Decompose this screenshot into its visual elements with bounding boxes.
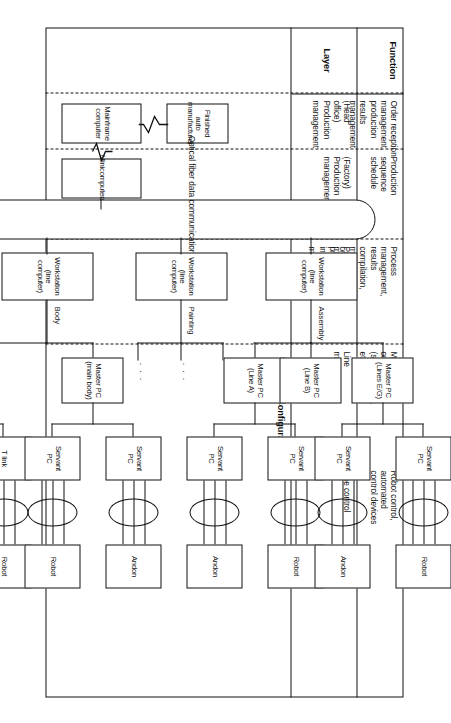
label-process-assembly: Assembly — [316, 306, 325, 340]
wire-linea-to-nodes — [254, 402, 255, 424]
bus-lineseg-1 — [395, 480, 451, 544]
wire-assembly-trunk-down — [253, 342, 311, 343]
wire-mainbody-node-bus — [51, 423, 133, 424]
wire-body-trunk — [46, 299, 47, 343]
wire-mainbody-to-nodes — [92, 402, 93, 424]
bus-lineseg-2 — [314, 480, 370, 544]
function-head-office: Order reception management, production r… — [347, 100, 398, 158]
wire-underbody-node-1 — [2, 423, 3, 437]
wire-painting-branch-2 — [180, 342, 181, 360]
box-workstation-body[interactable]: Workstation (line computer) — [1, 252, 93, 300]
wire-lineseg-to-nodes — [382, 402, 383, 424]
header-function: Function — [387, 33, 397, 87]
box-servant-pc-lineseg-2[interactable]: Servant PC — [314, 436, 370, 480]
box-master-pc-line-b[interactable]: Master PC (Line B) — [279, 357, 341, 403]
layer-head-office: (Head office) Production management — [310, 100, 351, 146]
wire-linea-node-bus — [213, 423, 295, 424]
wire-assembly-to-lines-eg — [382, 342, 383, 358]
wire-linea-node-1 — [294, 423, 295, 437]
function-line-control: Robot control, automated control devices — [367, 470, 398, 528]
label-process-painting: Painting — [186, 306, 195, 334]
wire-fiber-to-workstation-assembly — [310, 237, 311, 254]
wire-painting-branch-3 — [137, 342, 138, 360]
wire-mainbody-node-1 — [132, 423, 133, 437]
wire-linea-node-2 — [213, 423, 214, 437]
wire-assembly-trunk — [310, 299, 311, 343]
box-device-andon-mainbody[interactable]: Andon — [105, 544, 161, 588]
wire-body-to-mainbody — [92, 342, 93, 358]
box-device-andon-linea[interactable]: Andon — [186, 544, 242, 588]
box-workstation-assembly[interactable]: Workstation (line computer) — [265, 252, 357, 300]
wire-lineseg-node-bus — [341, 423, 423, 424]
wire-lineseg-node-1 — [422, 423, 423, 437]
box-device-andon-lineseg[interactable]: Andon — [314, 544, 370, 588]
wire-assembly-to-line-a — [254, 342, 255, 358]
bus-mainbody-1 — [105, 480, 161, 544]
wire-mainbody-node-2 — [51, 423, 52, 437]
zigzag-link-mainframe-manufacturer — [138, 113, 168, 135]
box-servant-pc-linea-2[interactable]: Servant PC — [186, 436, 242, 480]
box-master-pc-lines-eg[interactable]: Master PC (Lines E/G) — [351, 357, 413, 403]
box-workstation-painting[interactable]: Workstation (line computer) — [135, 252, 227, 300]
wire-fiber-to-workstation-painting — [180, 237, 181, 254]
box-servant-pc-lineseg-1[interactable]: Servant PC — [395, 436, 451, 480]
ellipsis-painting-2: · · · — [178, 362, 188, 381]
row-sep-1 — [45, 92, 403, 93]
wire-assembly-to-line-b — [310, 342, 311, 358]
bus-mainbody-2 — [24, 480, 80, 544]
wire-painting-trunk — [180, 299, 181, 343]
layer-factory: (Factory) Production management — [320, 156, 351, 202]
box-servant-pc-mainbody-2[interactable]: Servant PC — [24, 436, 80, 480]
wire-lineseg-node-2 — [341, 423, 342, 437]
box-master-pc-line-a[interactable]: Master PC (Line A) — [223, 357, 285, 403]
box-device-robot-lineseg[interactable]: Robot — [395, 544, 451, 588]
header-layer: Layer — [321, 33, 331, 87]
label-process-body: Body — [52, 306, 61, 324]
box-servant-pc-mainbody-1[interactable]: Servant PC — [105, 436, 161, 480]
wire-minicomputers-to-fiber — [100, 197, 101, 209]
box-minicomputers[interactable]: Minicomputers — [61, 158, 141, 198]
box-finished-auto-manufacturer[interactable]: Finished auto manufacturer — [166, 103, 228, 143]
ellipsis-painting-3: · · · — [135, 362, 145, 381]
box-mainframe-computer[interactable]: Mainframe computer — [61, 103, 141, 143]
box-master-pc-main-body[interactable]: Master PC (main body) — [61, 357, 123, 403]
wire-body-trunk-up — [45, 342, 93, 343]
wire-fiber-to-workstation-body — [46, 237, 47, 254]
wire-body-trunk-vertical — [0, 342, 47, 343]
zigzag-link-mainframe-minicomputers — [86, 141, 118, 161]
box-device-robot-mainbody[interactable]: Robot — [24, 544, 80, 588]
bus-linea-2 — [186, 480, 242, 544]
function-factory: Production sequence schedule — [367, 156, 398, 214]
wire-assembly-trunk-vertical — [309, 342, 383, 343]
